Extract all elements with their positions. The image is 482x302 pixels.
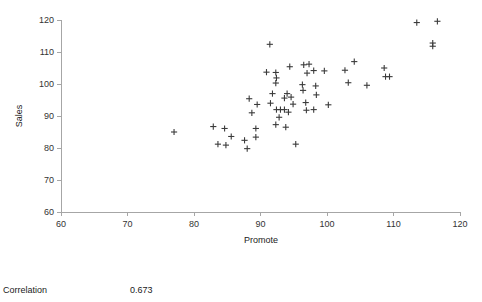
y-tick-label: 90 xyxy=(44,111,54,121)
tick-labels: 6070809010011012060708090100110120 xyxy=(39,15,468,229)
y-tick-label: 100 xyxy=(39,79,54,89)
marker-plus xyxy=(246,96,252,102)
marker-plus xyxy=(269,91,275,97)
marker-plus xyxy=(342,67,348,73)
marker-plus xyxy=(263,69,269,75)
marker-plus xyxy=(253,134,259,140)
plot-canvas: 6070809010011012060708090100110120 Promo… xyxy=(0,0,482,302)
marker-plus xyxy=(299,82,305,88)
marker-plus xyxy=(386,74,392,80)
marker-plus xyxy=(306,61,312,67)
marker-plus xyxy=(273,75,279,81)
correlation-row: Correlation 0.673 xyxy=(0,281,482,299)
marker-plus xyxy=(345,80,351,86)
marker-plus xyxy=(313,83,319,89)
marker-plus xyxy=(210,123,216,129)
y-tick-label: 120 xyxy=(39,15,54,25)
marker-plus xyxy=(244,146,250,152)
data-markers xyxy=(171,18,441,152)
x-tick-label: 70 xyxy=(122,219,132,229)
marker-plus xyxy=(351,59,357,65)
marker-plus xyxy=(304,70,310,76)
marker-plus xyxy=(288,94,294,100)
marker-plus xyxy=(283,124,289,130)
marker-plus xyxy=(321,68,327,74)
x-tick-label: 110 xyxy=(386,219,400,229)
marker-plus xyxy=(249,110,255,116)
y-tick-label: 80 xyxy=(44,143,54,153)
marker-plus xyxy=(287,64,293,70)
marker-plus xyxy=(276,114,282,120)
marker-plus xyxy=(303,99,309,105)
marker-plus xyxy=(325,102,331,108)
marker-plus xyxy=(364,82,370,88)
marker-plus xyxy=(171,129,177,135)
marker-plus xyxy=(301,62,307,68)
marker-plus xyxy=(254,101,260,107)
x-tick-label: 80 xyxy=(189,219,199,229)
y-axis-title: Sales xyxy=(14,104,24,127)
marker-plus xyxy=(273,80,279,86)
x-axis-title: Promote xyxy=(244,235,278,245)
marker-plus xyxy=(290,101,296,107)
marker-plus xyxy=(273,69,279,75)
marker-plus xyxy=(381,65,387,71)
marker-plus xyxy=(430,43,436,49)
y-tick-label: 110 xyxy=(40,47,54,57)
marker-plus xyxy=(267,41,273,47)
marker-plus xyxy=(434,18,440,24)
marker-plus xyxy=(311,67,317,73)
correlation-value: 0.673 xyxy=(130,285,153,295)
marker-plus xyxy=(414,19,420,25)
scatter-plot-figure: 6070809010011012060708090100110120 Promo… xyxy=(0,0,482,302)
x-tick-label: 90 xyxy=(255,219,265,229)
marker-plus xyxy=(311,107,317,113)
marker-plus xyxy=(293,141,299,147)
correlation-label: Correlation xyxy=(0,285,130,295)
marker-plus xyxy=(267,100,273,106)
marker-plus xyxy=(221,125,227,131)
marker-plus xyxy=(228,133,234,139)
marker-plus xyxy=(303,107,309,113)
y-tick-label: 60 xyxy=(44,207,54,217)
marker-plus xyxy=(273,122,279,128)
marker-plus xyxy=(253,125,259,131)
y-tick-label: 70 xyxy=(44,175,54,185)
x-tick-label: 100 xyxy=(319,219,334,229)
marker-plus xyxy=(215,141,221,147)
marker-plus xyxy=(223,142,229,148)
marker-plus xyxy=(300,87,306,93)
x-tick-label: 120 xyxy=(452,219,467,229)
axes xyxy=(57,20,460,216)
marker-plus xyxy=(313,92,319,98)
marker-plus xyxy=(241,137,247,143)
x-tick-label: 60 xyxy=(56,219,66,229)
